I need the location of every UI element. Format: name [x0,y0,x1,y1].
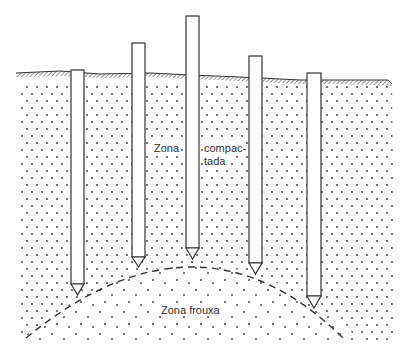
pile-1 [71,70,84,295]
compacted-zone-label-3: tada [204,155,226,167]
compacted-zone-label-2: compac- [204,142,247,154]
pile-4 [249,56,262,274]
pile-5 [307,73,321,308]
loose-zone-label: Zona frouxa [161,304,221,316]
compacted-zone-label-1: Zona [154,142,180,154]
pile-2 [132,43,145,267]
pile-compaction-diagram: Zona compac- tada Zona frouxa [0,0,406,356]
pile-3 [186,16,199,259]
